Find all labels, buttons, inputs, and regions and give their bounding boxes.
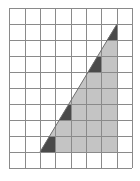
background (0, 0, 140, 181)
grid-triangle-diagram (0, 0, 140, 181)
